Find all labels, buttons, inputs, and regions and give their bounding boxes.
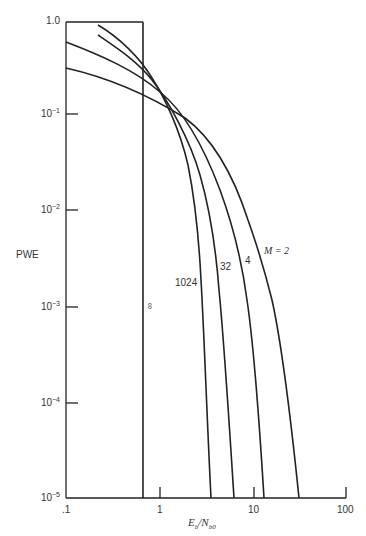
y-axis-title: PWE [16, 249, 39, 260]
label-m-32: 32 [220, 261, 231, 272]
y-tick-0.0001: 10−4 [20, 396, 60, 408]
curve-m-1024 [98, 25, 211, 498]
y-tick-1: 1.0 [20, 15, 60, 26]
label-m-2: M = 2 [264, 245, 289, 256]
y-tick-0.01: 10−2 [20, 203, 60, 215]
label-m-4: 4 [245, 255, 251, 266]
x-axis-title: Eb/Nb0 [188, 516, 216, 531]
x-tick-0.1: .1 [62, 504, 70, 515]
label-m-infinity: ∞ [145, 303, 155, 309]
y-tick-0.00001: 10−5 [20, 491, 60, 503]
y-tick-0.001: 10−3 [20, 300, 60, 312]
label-m-1024: 1024 [175, 277, 197, 288]
y-tick-0.1: 10−1 [20, 107, 60, 119]
x-tick-10: 10 [248, 504, 259, 515]
x-tick-1: 1 [157, 504, 163, 515]
chart-plot [0, 0, 366, 536]
x-tick-100: 100 [337, 504, 354, 515]
curve-m-4 [66, 42, 264, 498]
